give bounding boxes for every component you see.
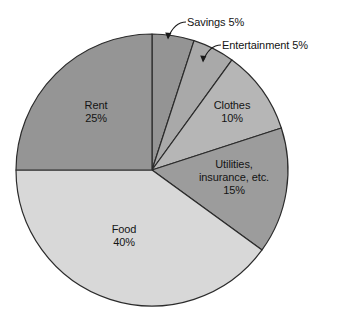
slice-label-rent-value: 25%	[60, 112, 132, 125]
slice-label-utilities-name-line2: insurance, etc.	[178, 171, 290, 184]
slice-label-food: Food 40%	[88, 223, 160, 249]
slice-label-clothes: Clothes 10%	[196, 99, 268, 125]
slice-label-clothes-name: Clothes	[196, 99, 268, 112]
slice-label-rent: Rent 25%	[60, 99, 132, 125]
slice-label-food-name: Food	[88, 223, 160, 236]
callout-label-savings: Savings 5%	[187, 16, 244, 29]
slice-label-utilities-value: 15%	[178, 184, 290, 197]
pie-chart: Rent 25% Clothes 10% Utilities, insuranc…	[0, 0, 340, 325]
slice-label-utilities: Utilities, insurance, etc. 15%	[178, 158, 290, 197]
slice-label-utilities-name-line1: Utilities,	[178, 158, 290, 171]
callout-label-entertainment: Entertainment 5%	[222, 39, 308, 52]
slice-label-food-value: 40%	[88, 236, 160, 249]
slice-label-rent-name: Rent	[60, 99, 132, 112]
slice-label-clothes-value: 10%	[196, 112, 268, 125]
